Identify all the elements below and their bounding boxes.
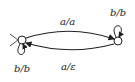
initial-state-marker	[10, 34, 18, 46]
state-diagram: a/a a/ε b/b b/b	[0, 0, 135, 82]
label-loop-q1: b/b	[110, 7, 126, 18]
self-loop-q0	[18, 44, 25, 55]
transition-q1-q0	[26, 43, 114, 50]
self-loop-q1	[114, 26, 121, 37]
label-loop-q0: b/b	[14, 63, 30, 74]
transition-q0-q1	[26, 31, 114, 39]
state-q1	[114, 37, 122, 45]
label-q0-q1: a/a	[60, 16, 75, 27]
label-q1-q0: a/ε	[61, 61, 76, 72]
state-q0	[18, 36, 26, 44]
